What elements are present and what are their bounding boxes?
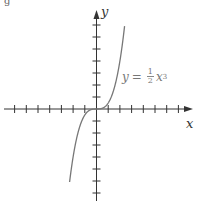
x-axis-arrow-icon [184,106,193,112]
y-axis-label: y [101,5,108,18]
equation-variable: x [156,70,163,84]
cubic-plot [0,0,200,207]
equation-fraction: 1 2 [147,68,154,85]
y-axis-arrow-icon [94,10,100,19]
equation-equals: = [132,70,142,84]
fraction-denominator: 2 [148,77,153,85]
equation-label: y = 1 2 x3 [122,68,167,85]
x-axis-label: x [186,117,193,130]
equation-lhs: y [122,70,129,84]
equation-exponent: 3 [163,73,167,81]
y-axis [93,10,101,201]
